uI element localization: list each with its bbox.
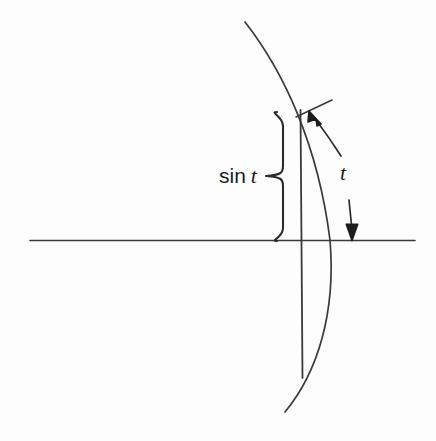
arc-parameter-label: t — [340, 162, 346, 184]
down-arrowhead — [346, 224, 358, 241]
arc-length-arrowhead — [308, 111, 321, 126]
vertical-chord — [301, 110, 303, 378]
sine-label: sint — [219, 165, 257, 187]
tangent-segment — [296, 100, 332, 117]
sine-label-function: sin — [219, 164, 246, 187]
sine-label-variable: t — [251, 163, 257, 188]
figure-canvas — [0, 0, 436, 441]
sine-brace — [266, 112, 283, 241]
trigonometry-figure: sint t — [0, 0, 436, 441]
circle-arc — [245, 22, 331, 412]
